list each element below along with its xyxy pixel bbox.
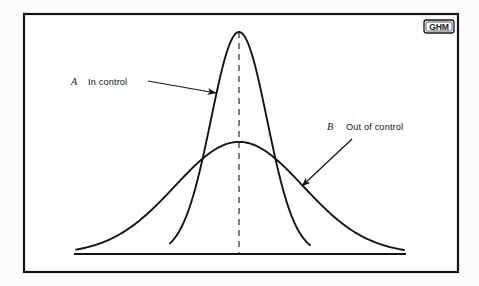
publisher-logo: GHM <box>424 20 454 33</box>
figure-border <box>24 14 458 272</box>
series-letter-a: A <box>70 76 78 87</box>
publisher-logo-text: GHM <box>429 22 448 32</box>
figure-container: A In control B Out of control GHM <box>0 0 479 286</box>
control-chart-figure: A In control B Out of control GHM <box>0 0 479 286</box>
series-label-in-control: In control <box>88 77 127 87</box>
series-label-out-of-control: Out of control <box>346 122 403 132</box>
series-letter-b: B <box>327 121 333 132</box>
